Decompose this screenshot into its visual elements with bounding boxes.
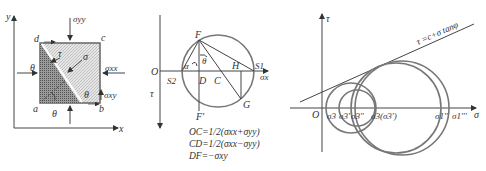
sigma-axis-c-label: σ: [474, 109, 480, 120]
tau-axis-c-label: τ: [326, 13, 330, 24]
panel-mohr-construction: O τ σx F F' G H C D S1 S2 α θ OC=1/2(σxx…: [150, 15, 268, 161]
alpha-arc: [192, 62, 197, 66]
shear-stress-label: τ: [58, 48, 62, 59]
point-D: D: [198, 75, 207, 86]
tick-sigma1: σ3(σ3'): [371, 111, 397, 121]
tick-sigma3: σ3: [327, 111, 336, 121]
sigma-axis-label: σx: [260, 72, 268, 82]
tick-sigma1-tprime: σ1''': [452, 111, 468, 121]
point-C: C: [214, 75, 221, 86]
point-F-prime: F': [195, 111, 205, 122]
tick-sigma3-dprime: σ3'': [351, 111, 365, 121]
line-F-S1: [199, 40, 254, 71]
theta-bottom-label: θ: [52, 108, 57, 119]
equation-OC: OC=1/2(σxx+σyy): [189, 127, 260, 138]
equation-CD: CD=1/2(σxx−σyy): [189, 139, 260, 150]
corner-c: c: [101, 32, 106, 43]
tau-axis-label: τ: [150, 88, 154, 99]
point-S2: S2: [167, 76, 177, 86]
theta-left-label: θ: [30, 62, 35, 73]
theta-label: θ: [202, 56, 207, 66]
corner-b: b: [99, 103, 104, 114]
point-F: F: [194, 29, 202, 40]
x-axis-label: x: [118, 123, 124, 134]
tick-sigma3-prime: σ3': [339, 111, 351, 121]
origin-c-label: O: [312, 109, 319, 120]
theta-plane-label: θ: [84, 89, 89, 100]
origin-label: O: [151, 66, 158, 77]
equation-DF: DF=−σxy: [188, 151, 228, 161]
sigma-yy-label: σyy: [73, 14, 85, 24]
panel-stress-element: y x d c a b σyy σxx σxy σ τ θ θ θ: [5, 11, 125, 134]
point-G: G: [243, 99, 250, 110]
diagram-canvas: y x d c a b σyy σxx σxy σ τ θ θ θ: [0, 0, 486, 171]
corner-a: a: [33, 103, 38, 114]
tick-sigma1-dprime: σ1'': [435, 111, 449, 121]
sigma-xy-label: σxy: [104, 90, 116, 100]
alpha-label: α: [184, 61, 189, 71]
panel-mohr-coulomb: τ σ O τ =c+σ tanφ σ3 σ3' σ3'' σ3(σ3') σ1…: [290, 13, 480, 155]
corner-d: d: [34, 33, 40, 44]
point-S1: S1: [255, 61, 264, 71]
y-axis-label: y: [5, 11, 11, 22]
point-H: H: [231, 60, 240, 71]
sigma-xx-label: σxx: [105, 63, 117, 73]
